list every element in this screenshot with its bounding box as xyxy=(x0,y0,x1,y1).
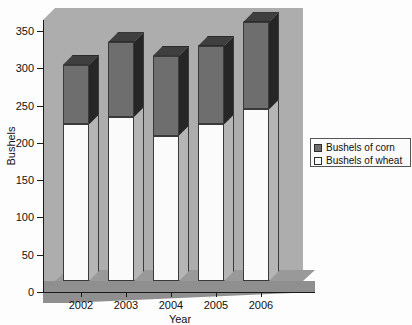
y-tick xyxy=(37,255,43,256)
x-tick-label: 2006 xyxy=(239,299,283,311)
bar-segment-corn[interactable] xyxy=(153,56,179,136)
bar-side-corn xyxy=(89,55,99,125)
bar-column[interactable] xyxy=(153,56,179,281)
bar-column[interactable] xyxy=(198,46,224,281)
y-tick xyxy=(37,31,43,32)
y-tick-label: 250 xyxy=(0,101,34,112)
bar-side-wheat xyxy=(134,107,144,281)
bar-segment-corn[interactable] xyxy=(108,42,134,117)
legend-swatch-wheat-icon xyxy=(314,157,322,165)
bar-side-corn xyxy=(134,32,144,117)
bar-segment-wheat[interactable] xyxy=(63,124,89,281)
x-tick-label: 2005 xyxy=(194,299,238,311)
y-axis-line xyxy=(43,20,44,293)
bar-column[interactable] xyxy=(108,42,134,281)
bar-segment-wheat[interactable] xyxy=(108,117,134,281)
y-tick-label: 100 xyxy=(0,212,34,223)
y-tick xyxy=(37,68,43,69)
x-tick-label: 2003 xyxy=(104,299,148,311)
bar-segment-wheat[interactable] xyxy=(243,109,269,281)
bar-segment-corn[interactable] xyxy=(63,65,89,125)
y-tick-label: 0 xyxy=(0,287,34,298)
bar-side-wheat xyxy=(269,99,279,281)
y-tick xyxy=(37,143,43,144)
bar-column[interactable] xyxy=(63,65,89,281)
legend-label-wheat: Bushels of wheat xyxy=(326,156,402,166)
bar-side-corn xyxy=(224,36,234,124)
x-tick-label: 2004 xyxy=(149,299,193,311)
bar-side-wheat xyxy=(224,114,234,281)
x-tick-label: 2002 xyxy=(59,299,103,311)
y-axis-title: Bushels xyxy=(5,111,17,181)
bar-side-corn xyxy=(179,46,189,136)
legend-label-corn: Bushels of corn xyxy=(326,143,395,153)
y-tick-label: 350 xyxy=(0,26,34,37)
legend-item-corn[interactable]: Bushels of corn xyxy=(314,142,407,154)
bar-side-corn xyxy=(269,12,279,109)
y-tick xyxy=(37,180,43,181)
x-tick xyxy=(126,292,127,297)
bar-segment-wheat[interactable] xyxy=(153,136,179,281)
bar-segment-corn[interactable] xyxy=(198,46,224,124)
x-tick xyxy=(261,292,262,297)
bar-column[interactable] xyxy=(243,22,269,281)
y-tick xyxy=(37,292,43,293)
x-axis-line xyxy=(43,292,315,293)
bar-side-wheat xyxy=(179,126,189,281)
x-tick xyxy=(171,292,172,297)
x-axis-title: Year xyxy=(120,313,240,325)
x-tick xyxy=(81,292,82,297)
legend-item-wheat[interactable]: Bushels of wheat xyxy=(314,155,407,167)
plot-left-wall xyxy=(43,8,55,293)
bar-segment-wheat[interactable] xyxy=(198,124,224,281)
chart-legend: Bushels of corn Bushels of wheat xyxy=(310,138,411,167)
x-tick xyxy=(216,292,217,297)
bar-segment-corn[interactable] xyxy=(243,22,269,109)
y-tick-label: 50 xyxy=(0,250,34,261)
legend-swatch-corn-icon xyxy=(314,144,322,152)
y-tick xyxy=(37,106,43,107)
y-tick xyxy=(37,217,43,218)
bar-side-wheat xyxy=(89,114,99,281)
y-tick-label: 300 xyxy=(0,63,34,74)
